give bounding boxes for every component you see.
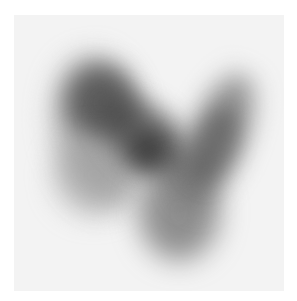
scan-panel: [14, 15, 284, 291]
isthmus-center: [129, 130, 169, 170]
